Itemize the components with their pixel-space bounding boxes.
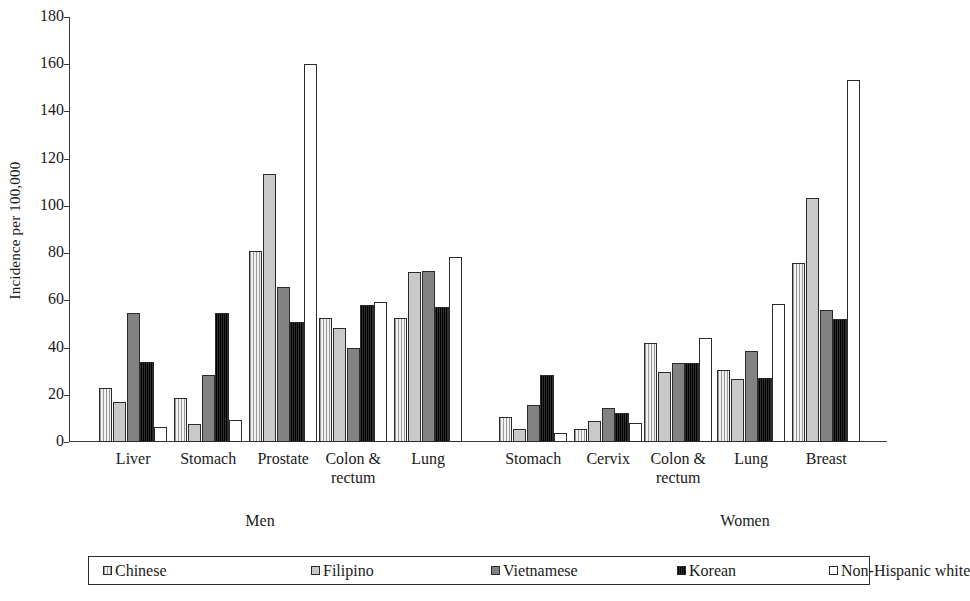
y-tick-mark bbox=[64, 111, 69, 112]
bar bbox=[806, 198, 819, 442]
bar bbox=[408, 272, 421, 442]
bar-group bbox=[574, 17, 642, 442]
panel-label: Women bbox=[700, 512, 790, 530]
bar-group bbox=[249, 17, 317, 442]
y-tick-mark bbox=[64, 253, 69, 254]
bar bbox=[588, 421, 601, 442]
bar bbox=[188, 424, 201, 442]
legend-swatch-filipino bbox=[311, 566, 320, 575]
category-label-line: rectum bbox=[633, 468, 723, 487]
bar bbox=[229, 420, 242, 442]
bar bbox=[772, 304, 785, 442]
y-tick-mark bbox=[64, 159, 69, 160]
bar bbox=[731, 379, 744, 442]
y-axis-line bbox=[69, 17, 70, 442]
category-label-line: Breast bbox=[781, 449, 871, 468]
bar bbox=[174, 398, 187, 442]
bar bbox=[202, 375, 215, 442]
bar-group bbox=[394, 17, 462, 442]
y-tick-mark bbox=[64, 300, 69, 301]
bar-group bbox=[717, 17, 785, 442]
bar bbox=[672, 363, 685, 442]
legend-swatch-nhw bbox=[829, 566, 838, 575]
legend-item: Chinese bbox=[103, 562, 167, 580]
bar bbox=[140, 362, 153, 442]
bar bbox=[290, 322, 303, 442]
bar bbox=[263, 174, 276, 442]
y-tick-label: 160 bbox=[18, 58, 64, 68]
bar bbox=[113, 402, 126, 442]
category-label: Lung bbox=[383, 449, 473, 468]
chart-legend: ChineseFilipinoVietnameseKoreanNon-Hispa… bbox=[88, 556, 870, 585]
bar bbox=[513, 429, 526, 442]
bar-group bbox=[644, 17, 712, 442]
bar bbox=[277, 287, 290, 442]
bar bbox=[658, 372, 671, 442]
legend-item: Vietnamese bbox=[491, 562, 578, 580]
bar bbox=[792, 263, 805, 442]
bar bbox=[347, 348, 360, 442]
bar bbox=[615, 413, 628, 443]
bar bbox=[745, 351, 758, 442]
legend-item: Filipino bbox=[311, 562, 374, 580]
legend-label: Vietnamese bbox=[503, 562, 578, 580]
bar bbox=[449, 257, 462, 442]
y-tick-label: 20 bbox=[18, 389, 64, 399]
y-tick-label: 60 bbox=[18, 294, 64, 304]
y-tick-label: 0 bbox=[18, 436, 64, 446]
legend-swatch-korean bbox=[677, 566, 686, 575]
y-tick-mark bbox=[64, 348, 69, 349]
bar bbox=[758, 378, 771, 442]
y-tick-mark bbox=[64, 206, 69, 207]
bar bbox=[629, 423, 642, 442]
bar bbox=[215, 313, 228, 442]
legend-item: Korean bbox=[677, 562, 736, 580]
bar bbox=[374, 302, 387, 442]
legend-label: Non-Hispanic white bbox=[841, 562, 970, 580]
bar bbox=[574, 429, 587, 442]
bar bbox=[644, 343, 657, 442]
y-tick-mark bbox=[64, 64, 69, 65]
bar bbox=[360, 305, 373, 442]
bar bbox=[394, 318, 407, 442]
bar bbox=[99, 388, 112, 442]
y-tick-label: 180 bbox=[18, 11, 64, 21]
legend-label: Chinese bbox=[115, 562, 167, 580]
bar bbox=[527, 405, 540, 442]
bar bbox=[154, 427, 167, 442]
bar bbox=[127, 313, 140, 442]
legend-swatch-chinese bbox=[103, 566, 112, 575]
bar bbox=[554, 433, 567, 442]
bar bbox=[699, 338, 712, 442]
bar-group bbox=[792, 17, 860, 442]
bar-group bbox=[319, 17, 387, 442]
bar bbox=[249, 251, 262, 442]
bar bbox=[304, 64, 317, 442]
y-tick-mark bbox=[64, 17, 69, 18]
bar bbox=[499, 417, 512, 442]
bar-group bbox=[99, 17, 167, 442]
bar-group bbox=[174, 17, 242, 442]
panel-label: Men bbox=[215, 512, 305, 530]
legend-swatch-vietnamese bbox=[491, 566, 500, 575]
category-label: Breast bbox=[781, 449, 871, 468]
bar bbox=[717, 370, 730, 442]
y-tick-label: 100 bbox=[18, 200, 64, 210]
bar bbox=[333, 328, 346, 443]
bar bbox=[319, 318, 332, 442]
bar bbox=[685, 363, 698, 442]
bar bbox=[833, 319, 846, 442]
y-tick-mark bbox=[64, 395, 69, 396]
y-tick-label: 120 bbox=[18, 153, 64, 163]
bar bbox=[422, 271, 435, 442]
legend-item: Non-Hispanic white bbox=[829, 562, 970, 580]
bar bbox=[435, 307, 448, 442]
category-label-line: Lung bbox=[383, 449, 473, 468]
bar bbox=[540, 375, 553, 442]
bar bbox=[847, 80, 860, 442]
bar bbox=[820, 310, 833, 442]
y-tick-label: 80 bbox=[18, 247, 64, 257]
plot-area bbox=[69, 17, 887, 442]
bar bbox=[602, 408, 615, 442]
